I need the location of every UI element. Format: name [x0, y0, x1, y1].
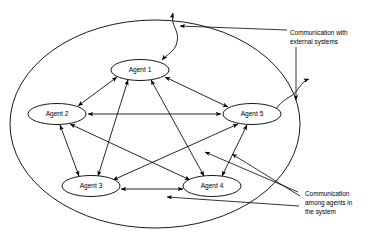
annotation-internal-line3: the system: [305, 208, 336, 216]
edge-agent1-agent5: [165, 77, 228, 107]
agent-communication-edges: [60, 77, 247, 189]
annotation-external-systems: Communication with external systems: [290, 29, 348, 46]
edge-agent3-agent5: [113, 124, 238, 180]
agent-node-agent4[interactable]: Agent 4: [183, 176, 241, 197]
agent3-label: Agent 3: [80, 182, 103, 190]
annotation-external-line1: Communication with: [290, 29, 348, 36]
agent5-label: Agent 5: [241, 110, 264, 118]
edge-agent2-agent4: [70, 124, 190, 180]
agent-node-agent2[interactable]: Agent 2: [28, 104, 86, 125]
edge-agent1-agent3: [98, 80, 128, 176]
edge-agent1-agent4: [151, 80, 204, 176]
annotation-agent-communication: Communication among agents in the system: [305, 190, 353, 216]
leader-internal-3: [167, 197, 299, 206]
annotation-external-line2: external systems: [290, 38, 338, 46]
agent-node-agent5[interactable]: Agent 5: [223, 104, 281, 125]
agent-node-agent3[interactable]: Agent 3: [62, 176, 120, 197]
agent1-label: Agent 1: [129, 66, 152, 74]
agent2-label: Agent 2: [46, 110, 69, 118]
annotation-internal-line1: Communication: [305, 190, 350, 197]
agent-node-agent1[interactable]: Agent 1: [111, 60, 169, 81]
leader-internal-2: [232, 154, 300, 196]
agent-system-diagram: Agent 1 Agent 2 Agent 5 Agent 3 Agent 4 …: [0, 0, 372, 248]
annotation-internal-line2: among agents in: [305, 199, 353, 207]
agent4-label: Agent 4: [201, 182, 224, 190]
leader-external-top: [180, 26, 287, 30]
edge-agent2-agent3: [60, 125, 79, 176]
edge-agent1-agent2: [78, 77, 117, 106]
